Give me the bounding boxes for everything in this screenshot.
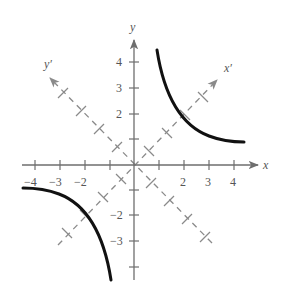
x-tick-label: −2 [74, 175, 87, 189]
x-tick-label: 4 [230, 175, 236, 189]
x-tick-label: 3 [205, 175, 211, 189]
x-prime-axis-label: x′ [223, 61, 232, 75]
y-axis-label: y [129, 20, 136, 34]
y-prime-axis [50, 78, 212, 243]
x-axis [22, 160, 258, 170]
hyperbola-figure: x y x′ y′ −4 −3 −2 2 3 4 4 3 2 −2 −3 [0, 0, 284, 301]
y-axis [129, 40, 139, 280]
y-tick-label: 3 [116, 81, 122, 95]
x-axis-label: x [262, 158, 269, 172]
x-prime-axis [58, 80, 217, 245]
x-tick-label: 2 [180, 175, 186, 189]
y-prime-axis-label: y′ [43, 57, 52, 71]
hyperbola-branch-quadrant-3 [23, 188, 111, 280]
y-tick-label: 2 [116, 107, 122, 121]
x-tick-label: −3 [49, 175, 62, 189]
y-tick-label: −3 [110, 234, 123, 248]
y-tick-label: 4 [116, 55, 122, 69]
x-tick-label: −4 [24, 175, 37, 189]
y-tick-label: −2 [110, 208, 123, 222]
